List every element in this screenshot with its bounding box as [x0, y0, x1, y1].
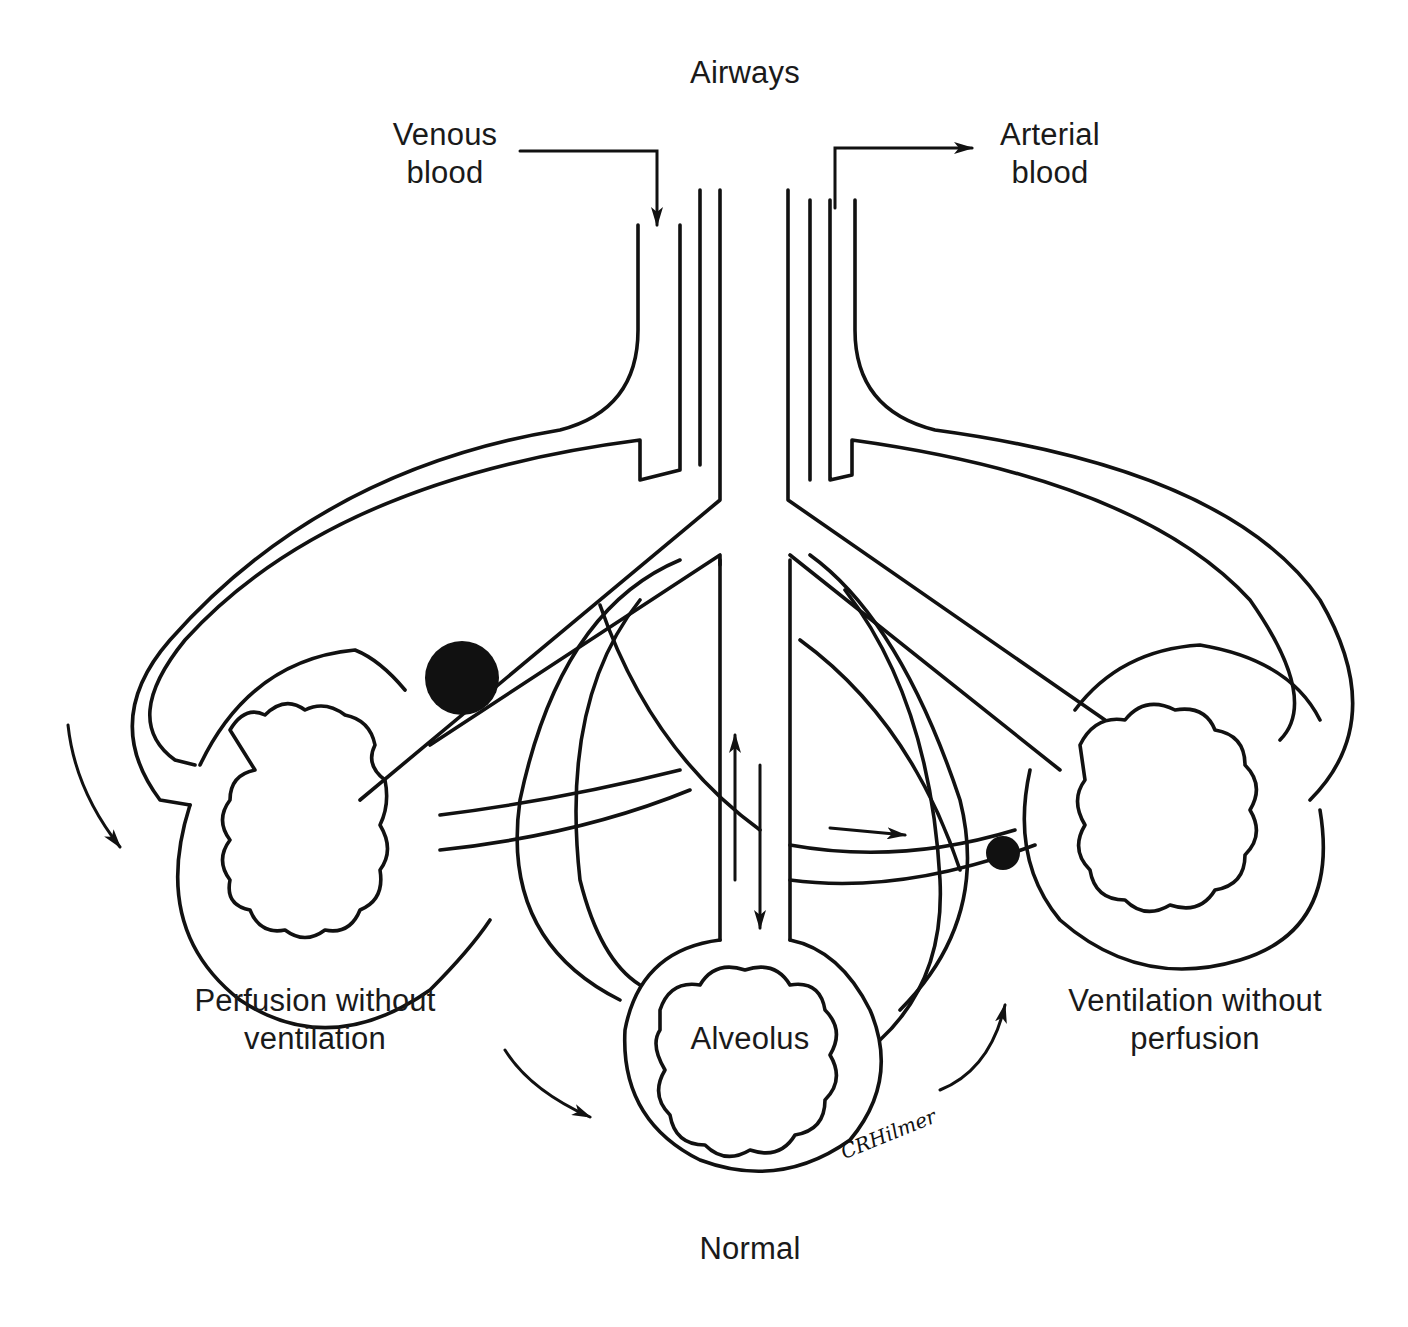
left-alveolus-unit — [178, 641, 690, 1028]
normal-label: Normal — [660, 1230, 840, 1268]
right-alveolus-unit — [790, 645, 1323, 969]
alveolus-label: Alveolus — [670, 1020, 830, 1058]
venous-vessels — [132, 190, 700, 805]
arterial-blood-label: Arterial blood — [970, 116, 1130, 192]
ventilation-without-perfusion-label: Ventilation without perfusion — [1020, 982, 1370, 1058]
arterial-vessels — [810, 200, 1353, 800]
ventilation-perfusion-diagram — [0, 0, 1408, 1327]
airway-tree — [360, 190, 1105, 940]
venous-blood-label: Venous blood — [370, 116, 520, 192]
perfusion-without-ventilation-label: Perfusion without ventilation — [150, 982, 480, 1058]
airways-label: Airways — [660, 54, 830, 92]
airway-obstruction-plug — [425, 641, 499, 715]
normal-alveolus-unit — [517, 555, 967, 1171]
capillary-obstruction-embolus — [986, 836, 1020, 870]
